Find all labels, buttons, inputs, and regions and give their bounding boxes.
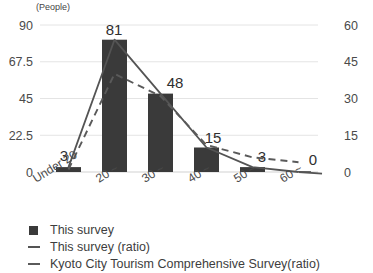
bar-20 [102, 40, 127, 172]
legend-dashed-line-icon [28, 257, 50, 271]
data-label-50: 3 [258, 148, 266, 165]
left-tick-45: 45 [19, 92, 33, 106]
chart-legend: This survey This survey (ratio) Kyoto Ci… [28, 222, 373, 273]
left-tick-90: 90 [19, 19, 33, 33]
legend-item-this-survey: This survey [28, 222, 373, 238]
left-axis-labels: 90 67.5 45 22.5 0 [9, 19, 33, 180]
right-tick-15: 15 [344, 129, 358, 143]
legend-solid-line-icon [28, 240, 50, 254]
chart-container: (People) 90 67.5 45 22.5 0 60 4 [0, 0, 373, 273]
x-label-60: 60 ~ [277, 161, 305, 185]
legend-label-this-survey: This survey [50, 223, 114, 237]
x-label-50: 50 ~ [231, 161, 259, 185]
data-label-40: 15 [205, 129, 222, 146]
right-axis-labels: 60 45 30 15 0 [344, 19, 358, 180]
left-tick-22-5: 22.5 [9, 129, 33, 143]
legend-item-this-survey-ratio: This survey (ratio) [28, 239, 373, 255]
chart-svg: 90 67.5 45 22.5 0 60 45 30 15 0 [0, 0, 373, 200]
right-tick-60: 60 [344, 19, 358, 33]
legend-item-kyoto-survey-ratio: Kyoto City Tourism Comprehensive Survey(… [28, 256, 373, 272]
gridlines [40, 25, 318, 172]
bar-series-this-survey [56, 40, 311, 172]
x-label-under-20: Under 20 [30, 147, 80, 185]
plot-area: 90 67.5 45 22.5 0 60 45 30 15 0 [0, 0, 373, 200]
data-label-30: 48 [167, 74, 184, 91]
legend-box-icon [28, 223, 50, 237]
data-label-20: 81 [106, 21, 123, 38]
legend-label-kyoto-survey-ratio: Kyoto City Tourism Comprehensive Survey(… [50, 257, 320, 271]
left-tick-67-5: 67.5 [9, 55, 33, 69]
right-tick-30: 30 [344, 92, 358, 106]
legend-label-this-survey-ratio: This survey (ratio) [50, 240, 150, 254]
right-tick-0: 0 [344, 166, 351, 180]
right-tick-45: 45 [344, 55, 358, 69]
data-labels: 3 81 48 15 3 0 [60, 21, 317, 168]
data-label-60: 0 [309, 151, 317, 168]
